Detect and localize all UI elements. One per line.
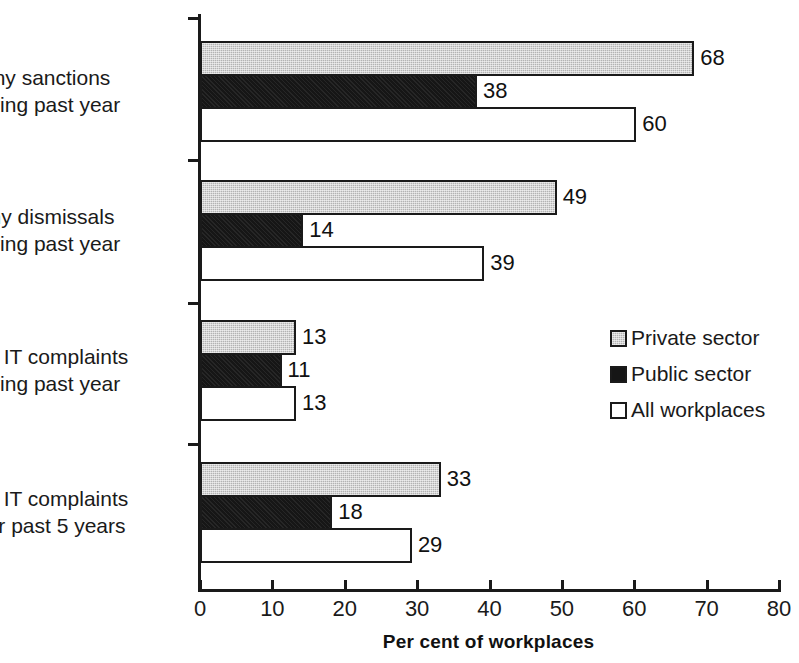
legend-item[interactable]: Private sector: [610, 320, 799, 356]
category-label-line: Any IT complaints: [0, 343, 195, 370]
x-axis-tick-label: 20: [315, 596, 375, 622]
category-label-line: during past year: [0, 370, 195, 397]
bar-value-label: 11: [288, 359, 311, 381]
bar: [200, 74, 477, 109]
x-axis-tick-label: 70: [677, 596, 737, 622]
bar: [200, 246, 484, 281]
category-label: Any sanctionsduring past year: [0, 64, 195, 118]
category-label: Any IT complaintsover past 5 years: [0, 485, 195, 539]
legend-label: Private sector: [631, 326, 759, 350]
chart-legend: Private sectorPublic sectorAll workplace…: [610, 320, 799, 428]
legend-item[interactable]: Public sector: [610, 356, 799, 392]
bar-value-label: 49: [563, 186, 587, 208]
legend-label: Public sector: [631, 362, 751, 386]
bar: [200, 41, 694, 76]
bar-value-label: 68: [700, 47, 724, 69]
category-label-line: Any IT complaints: [0, 485, 195, 512]
bar: [200, 353, 282, 388]
legend-swatch-icon: [610, 402, 627, 419]
x-axis-tick-label: 80: [749, 596, 799, 622]
x-axis-tick-label: 40: [460, 596, 520, 622]
bar-value-label: 39: [490, 252, 514, 274]
bar-chart: 01020304050607080Any sanctionsduring pas…: [0, 0, 799, 663]
bar: [200, 107, 636, 142]
legend-label: All workplaces: [631, 398, 765, 422]
bar-value-label: 60: [642, 113, 666, 135]
category-label-line: during past year: [0, 230, 195, 257]
bar-value-label: 38: [483, 80, 507, 102]
bar: [200, 495, 332, 530]
category-label-line: Any dismissals: [0, 203, 195, 230]
legend-item[interactable]: All workplaces: [610, 392, 799, 428]
x-axis-title: Per cent of workplaces: [198, 631, 779, 653]
x-axis-tick-label: 50: [532, 596, 592, 622]
bar: [200, 528, 412, 563]
x-axis-tick-label: 60: [604, 596, 664, 622]
bar-value-label: 18: [338, 501, 362, 523]
bar: [200, 320, 296, 355]
bar-value-label: 33: [447, 468, 471, 490]
x-axis-tick-label: 30: [387, 596, 447, 622]
bar: [200, 386, 296, 421]
category-label: Any IT complaintsduring past year: [0, 343, 195, 397]
bar: [200, 462, 441, 497]
category-label: Any dismissalsduring past year: [0, 203, 195, 257]
category-label-line: Any sanctions: [0, 64, 195, 91]
bar: [200, 213, 303, 248]
bar-value-label: 13: [302, 392, 326, 414]
legend-swatch-icon: [610, 366, 627, 383]
x-axis-tick-label: 0: [170, 596, 230, 622]
legend-swatch-icon: [610, 330, 627, 347]
bar-value-label: 29: [418, 534, 442, 556]
x-axis-line: [198, 589, 779, 592]
category-label-line: over past 5 years: [0, 512, 195, 539]
x-axis-tick-label: 10: [242, 596, 302, 622]
category-label-line: during past year: [0, 91, 195, 118]
bar: [200, 180, 557, 215]
bar-value-label: 13: [302, 326, 326, 348]
bar-value-label: 14: [309, 219, 333, 241]
